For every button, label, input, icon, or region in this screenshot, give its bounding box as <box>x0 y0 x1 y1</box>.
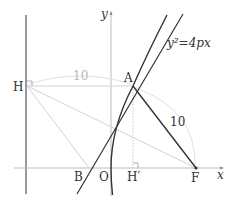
point-label-B: B <box>74 170 83 184</box>
point-label-O: O <box>99 170 109 184</box>
length-label-HA: 10 <box>73 69 88 83</box>
length-label-AF: 10 <box>170 115 185 129</box>
y-axis-label: y <box>100 7 108 21</box>
x-axis-label: x <box>217 168 224 182</box>
parabola-equation-label: y²=4px <box>166 36 211 50</box>
focus-point <box>194 166 197 169</box>
point-label-A: A <box>123 71 133 85</box>
segment-HB <box>27 86 89 168</box>
parabola-tangent-diagram: y x y²=4px H A B O H′ F 10 10 <box>0 0 235 211</box>
point-label-H-prime: H′ <box>127 170 140 184</box>
point-label-F: F <box>191 171 199 185</box>
y-axis-arrow-icon <box>110 11 113 15</box>
right-angle-marker-H-prime <box>133 163 138 168</box>
point-label-H: H <box>13 80 23 94</box>
